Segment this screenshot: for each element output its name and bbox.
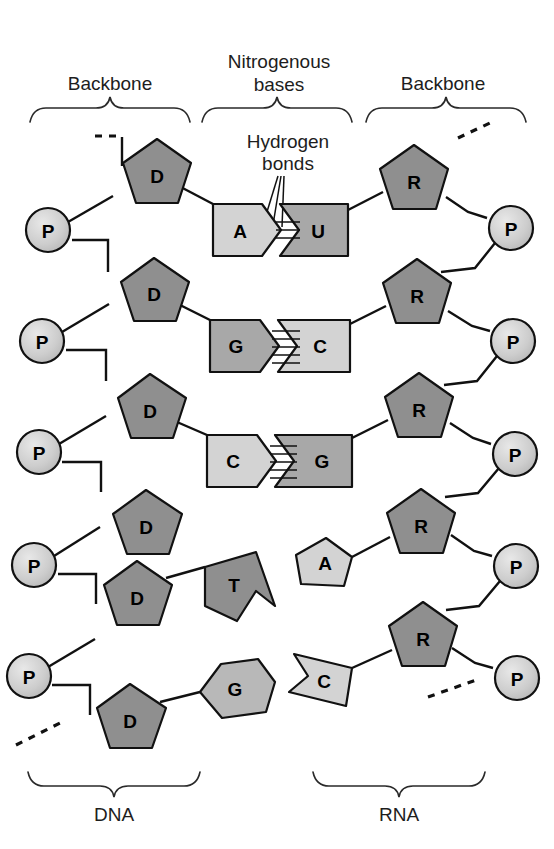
label-dna: DNA	[94, 804, 134, 825]
base-label-A-left: A	[233, 221, 247, 242]
base-label-A-unpaired: A	[318, 553, 332, 574]
base-label-C-right: C	[313, 336, 327, 357]
dna-phosphate-4: P	[12, 543, 56, 587]
base-label-U-right: U	[311, 221, 325, 242]
label-rna: RNA	[379, 804, 419, 825]
rna-phosphate-label-5: P	[511, 669, 524, 690]
base-label-T: T	[228, 575, 240, 596]
rna-phosphate-3: P	[493, 432, 537, 476]
rna-sugar-label-3: R	[412, 400, 426, 421]
base-label-G-unpaired: G	[228, 679, 243, 700]
rna-sugar-label-2: R	[410, 286, 424, 307]
dna-phosphate-3: P	[17, 430, 61, 474]
dna-phosphate-1: P	[26, 208, 70, 252]
dna-phosphate-label-2: P	[36, 332, 49, 353]
dna-sugar-label-2: D	[147, 284, 161, 305]
dna-rna-structure-diagram: Backbone Nitrogenous bases Backbone Hydr…	[0, 0, 554, 849]
rna-phosphate-label-4: P	[510, 557, 523, 578]
rna-sugar-label-4: R	[414, 516, 428, 537]
dna-sugar-label-5: D	[130, 588, 144, 609]
rna-phosphate-5: P	[495, 656, 539, 700]
dna-phosphate-label-4: P	[28, 556, 41, 577]
rna-sugar-label-5: R	[416, 629, 430, 650]
rna-phosphate-2: P	[491, 319, 535, 363]
label-nitrogenous-line1: Nitrogenous	[228, 51, 330, 72]
dna-sugar-label-6: D	[123, 711, 137, 732]
dna-phosphate-label-3: P	[33, 443, 46, 464]
base-label-G-left: G	[229, 336, 244, 357]
dna-phosphate-2: P	[20, 319, 64, 363]
canvas-background	[0, 0, 554, 849]
dna-sugar-label-4: D	[139, 517, 153, 538]
rna-phosphate-label-2: P	[507, 332, 520, 353]
base-label-C-left: C	[226, 451, 240, 472]
base-label-C-unpaired: C	[317, 671, 331, 692]
dna-phosphate-5: P	[7, 654, 51, 698]
label-backbone-right: Backbone	[401, 73, 486, 94]
rna-phosphate-1: P	[489, 206, 533, 250]
rna-phosphate-label-1: P	[505, 219, 518, 240]
label-nitrogenous-line2: bases	[254, 74, 305, 95]
dna-phosphate-label-5: P	[23, 667, 36, 688]
base-label-G-right: G	[315, 451, 330, 472]
callout-hydrogen-line2: bonds	[262, 153, 314, 174]
label-backbone-left: Backbone	[68, 73, 153, 94]
rna-phosphate-4: P	[494, 544, 538, 588]
diagram-canvas: Backbone Nitrogenous bases Backbone Hydr…	[0, 0, 554, 849]
callout-hydrogen-line1: Hydrogen	[247, 131, 329, 152]
dna-sugar-label-1: D	[150, 166, 164, 187]
rna-sugar-label-1: R	[407, 172, 421, 193]
dna-sugar-label-3: D	[143, 401, 157, 422]
rna-phosphate-label-3: P	[509, 445, 522, 466]
dna-phosphate-label-1: P	[42, 221, 55, 242]
